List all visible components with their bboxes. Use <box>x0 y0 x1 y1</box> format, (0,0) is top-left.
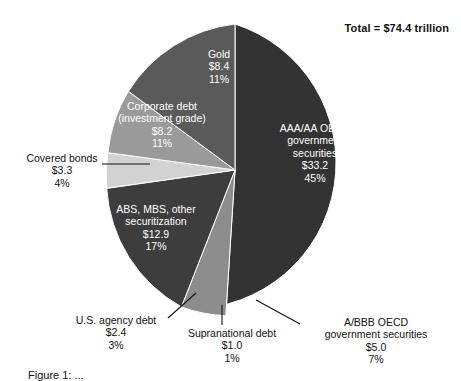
leader-line-a-bbb-oecd <box>256 300 300 324</box>
slice-label-line1: Covered bonds <box>8 152 116 164</box>
total-label: Total = $74.4 trillion <box>345 22 449 34</box>
slice-label-line3: securities <box>252 147 378 159</box>
slice-label-line1: AAA/AA OECD <box>252 122 378 134</box>
slice-label-us-agency-debt: U.S. agency debt $2.4 3% <box>58 314 174 351</box>
slice-label-percent: 1% <box>170 352 294 364</box>
slice-label-percent: 11% <box>100 137 224 149</box>
slice-label-supranational-debt: Supranational debt $1.0 1% <box>170 327 294 364</box>
slice-label-percent: 3% <box>58 339 174 351</box>
slice-label-value: $5.0 <box>300 341 452 353</box>
slice-label-percent: 45% <box>252 172 378 184</box>
slice-label-line2: securitization <box>90 215 222 227</box>
slice-label-line2: (investment grade) <box>100 112 224 124</box>
slice-label-percent: 4% <box>8 177 116 189</box>
slice-label-aaa-aa-oecd: AAA/AA OECD government securities $33.2 … <box>252 122 378 184</box>
slice-label-value: $2.4 <box>58 326 174 338</box>
slice-label-value: $12.9 <box>90 228 222 240</box>
slice-label-line1: U.S. agency debt <box>58 314 174 326</box>
slice-label-gold: Gold $8.4 11% <box>182 48 256 85</box>
slice-label-line1: ABS, MBS, other <box>90 203 222 215</box>
slice-label-value: $33.2 <box>252 159 378 171</box>
slice-label-percent: 17% <box>90 240 222 252</box>
slice-label-line1: Gold <box>182 48 256 60</box>
figure-caption: Figure 1: ... <box>28 369 84 381</box>
slice-label-value: $8.4 <box>182 60 256 72</box>
slice-label-value: $3.3 <box>8 164 116 176</box>
slice-label-line1: A/BBB OECD <box>300 316 452 328</box>
slice-label-corporate-debt: Corporate debt (investment grade) $8.2 1… <box>100 100 224 150</box>
slice-label-line1: Corporate debt <box>100 100 224 112</box>
slice-label-value: $1.0 <box>170 339 294 351</box>
slice-label-covered-bonds: Covered bonds $3.3 4% <box>8 152 116 189</box>
slice-label-line1: Supranational debt <box>170 327 294 339</box>
slice-label-percent: 11% <box>182 73 256 85</box>
slice-label-a-bbb-oecd: A/BBB OECD government securities $5.0 7% <box>300 316 452 366</box>
slice-label-abs-mbs-securitization: ABS, MBS, other securitization $12.9 17% <box>90 203 222 253</box>
slice-label-value: $8.2 <box>100 125 224 137</box>
slice-label-percent: 7% <box>300 353 452 365</box>
slice-label-line2: government <box>252 134 378 146</box>
slice-label-line2: government securities <box>300 328 452 340</box>
